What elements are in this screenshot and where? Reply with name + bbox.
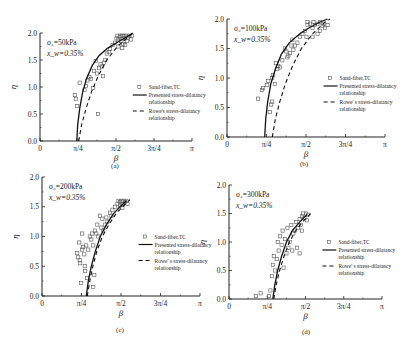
fiber-content-label: x_w=0.35% bbox=[233, 35, 271, 44]
data-point bbox=[279, 235, 282, 238]
data-point bbox=[76, 104, 79, 107]
legend-label-rowe-cont: relationship bbox=[338, 270, 364, 276]
presented-relationship-line bbox=[86, 201, 126, 296]
data-point bbox=[96, 223, 99, 226]
x-tick-label: π/2 bbox=[301, 140, 311, 149]
panel-caption: (d) bbox=[302, 328, 311, 336]
data-point bbox=[121, 47, 124, 50]
data-point bbox=[267, 79, 270, 82]
legend-label-presented-cont: relationship bbox=[155, 249, 181, 255]
y-tick-label: 0.0 bbox=[28, 137, 38, 146]
data-point bbox=[84, 269, 87, 272]
data-point bbox=[300, 229, 303, 232]
data-point bbox=[96, 112, 99, 115]
legend-marker-scatter bbox=[329, 77, 332, 80]
legend-label-scatter: Sand-fiber,TC bbox=[338, 239, 370, 245]
data-point bbox=[311, 35, 314, 38]
legend-marker-scatter bbox=[138, 86, 141, 89]
y-tick-label: 0.5 bbox=[217, 266, 227, 275]
y-tick-label: 1.0 bbox=[217, 238, 227, 247]
data-point bbox=[290, 223, 293, 226]
data-point bbox=[291, 249, 294, 252]
x-tick-label: 3π/4 bbox=[337, 302, 351, 311]
data-point bbox=[274, 269, 277, 272]
legend-marker-scatter bbox=[327, 241, 330, 244]
data-point bbox=[92, 244, 95, 247]
legend-label-rowe-cont: relationship bbox=[340, 106, 366, 112]
x-tick-label: π/2 bbox=[116, 299, 126, 308]
legend-label-rowe: Rowe' s stress-dilatancy bbox=[338, 263, 391, 269]
panel-caption: (a) bbox=[111, 162, 119, 170]
data-point bbox=[254, 295, 257, 298]
y-tick-label: 0.5 bbox=[215, 103, 225, 112]
y-tick-label: 1.0 bbox=[28, 83, 38, 92]
data-point bbox=[74, 97, 77, 100]
legend-label-presented-cont: relationship bbox=[149, 99, 175, 105]
data-point bbox=[271, 263, 274, 266]
x-axis-label: β bbox=[303, 149, 309, 159]
data-point bbox=[298, 252, 301, 255]
data-point bbox=[292, 48, 295, 51]
fiber-content-label: x_w=0.35% bbox=[235, 201, 273, 210]
confining-pressure-label: σ₃=200kPa bbox=[49, 182, 83, 191]
panel-a: 0.00.51.01.52.00π/4π/23π/4πβη(a)σ₃=50kPa… bbox=[8, 29, 206, 171]
data-point bbox=[281, 59, 284, 62]
data-point bbox=[78, 81, 81, 84]
legend: Sand-fiber,TCPresented stress-dilatancyr… bbox=[139, 234, 212, 271]
x-tick-label: π/4 bbox=[73, 144, 83, 153]
x-axis-label: β bbox=[118, 308, 124, 318]
legend-label-rowe: Rowe's stress-dilatancy bbox=[149, 108, 201, 114]
data-point bbox=[83, 253, 86, 256]
data-point bbox=[73, 94, 76, 97]
data-point bbox=[267, 295, 270, 298]
data-point bbox=[266, 83, 269, 86]
data-point bbox=[87, 248, 90, 251]
data-point bbox=[81, 248, 84, 251]
panel-caption: (c) bbox=[116, 326, 124, 334]
y-axis-label: η bbox=[197, 239, 207, 244]
data-point bbox=[78, 241, 81, 244]
panel-b: 0.00.51.01.52.00π/4π/23π/4πβη(b)σ₃=100kP… bbox=[195, 15, 397, 169]
x-tick-label: 0 bbox=[227, 302, 231, 311]
x-tick-label: π bbox=[383, 140, 387, 149]
data-point bbox=[93, 274, 96, 277]
confining-pressure-label: σ₃=50kPa bbox=[47, 38, 77, 47]
data-point bbox=[290, 44, 293, 47]
x-tick-label: 3π/4 bbox=[147, 144, 161, 153]
data-point bbox=[273, 82, 276, 85]
y-tick-label: 1.0 bbox=[30, 232, 40, 241]
presented-relationship-line bbox=[77, 33, 133, 141]
y-tick-label: 1.5 bbox=[217, 209, 227, 218]
x-tick-label: 0 bbox=[38, 144, 42, 153]
y-tick-label: 0.0 bbox=[30, 292, 40, 301]
data-point bbox=[105, 216, 108, 219]
data-point bbox=[80, 281, 83, 284]
figure: 0.00.51.01.52.00π/4π/23π/4πβη(a)σ₃=50kPa… bbox=[0, 0, 403, 350]
x-tick-label: π bbox=[380, 302, 384, 311]
legend-label-rowe: Rowe' s stress-dilatancy bbox=[155, 258, 208, 264]
data-point bbox=[270, 275, 273, 278]
y-tick-label: 2.0 bbox=[30, 173, 40, 182]
y-tick-label: 2.0 bbox=[215, 15, 225, 24]
legend-marker-scatter bbox=[144, 235, 147, 238]
data-point bbox=[257, 97, 260, 100]
data-point bbox=[285, 252, 288, 255]
fiber-content-label: x_w=0.35% bbox=[46, 49, 84, 58]
scatter-series bbox=[76, 199, 129, 288]
data-point bbox=[282, 266, 285, 269]
data-point bbox=[83, 265, 86, 268]
x-tick-label: π/4 bbox=[77, 299, 87, 308]
y-tick-label: 1.5 bbox=[215, 44, 225, 53]
y-tick-label: 0.5 bbox=[30, 262, 40, 271]
x-tick-label: π bbox=[190, 144, 194, 153]
x-axis-label: β bbox=[302, 311, 308, 321]
data-point bbox=[259, 292, 262, 295]
data-point bbox=[124, 43, 127, 46]
data-point bbox=[117, 45, 120, 48]
panel-d: 0.00.51.01.52.00π/4π/23π/4πβη(d)σ₃=300kP… bbox=[197, 181, 396, 337]
x-tick-label: 3π/4 bbox=[339, 140, 353, 149]
fiber-content-label: x_w=0.35% bbox=[48, 193, 86, 202]
legend: Sand-fiber,TCPresented stress-dilatancyr… bbox=[324, 75, 397, 112]
data-point bbox=[280, 243, 283, 246]
x-tick-label: 0 bbox=[225, 140, 229, 149]
